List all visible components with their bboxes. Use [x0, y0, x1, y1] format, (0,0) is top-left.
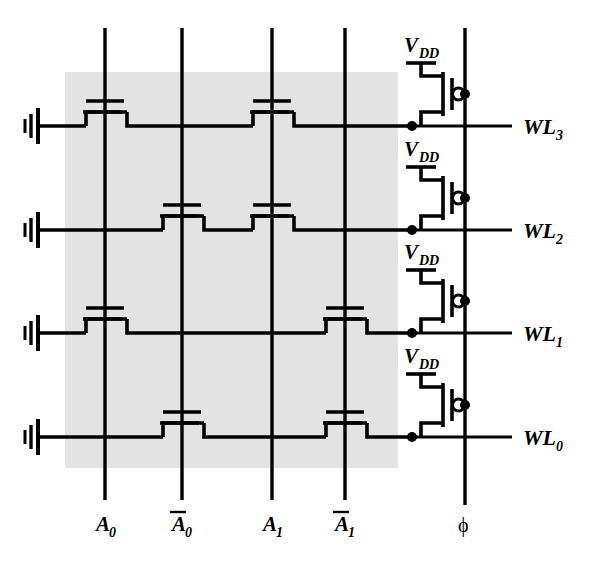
pmos-precharge-wl2: [406, 167, 470, 230]
address-label-a0: A 0: [94, 512, 116, 540]
vdd-label-wl2-text: V: [404, 137, 420, 161]
wl2-junction-dot: [407, 225, 417, 235]
circuit-diagram-figure: V DD V DD V DD V DD WL 3 WL 2 WL 1 WL 0 …: [0, 0, 590, 566]
a1-label-text: A: [261, 512, 277, 536]
address-label-a1: A 1: [261, 512, 283, 540]
pmos-wl2-drain-arm: [421, 216, 443, 230]
vdd-label-wl1-text: V: [404, 240, 420, 264]
wl0-label-text: WL: [523, 425, 556, 450]
wordline-label-wl2: WL 2: [523, 218, 563, 247]
vdd-label-wl0-sub: DD: [418, 357, 439, 372]
vdd-label-wl1-sub: DD: [418, 253, 439, 268]
pmos-wl0-clock-junction-dot: [460, 400, 470, 410]
decoder-schematic-svg: V DD V DD V DD V DD WL 3 WL 2 WL 1 WL 0 …: [0, 0, 590, 566]
wl0-junction-dot: [407, 432, 417, 442]
vdd-label-wl1: V DD: [404, 240, 439, 268]
a1-label-sub: 1: [276, 525, 283, 540]
pmos-precharge-wl3: [406, 63, 470, 126]
pmos-wl2-clock-junction-dot: [460, 193, 470, 203]
wordline-label-wl0: WL 0: [523, 425, 563, 454]
vdd-label-wl0-text: V: [404, 344, 420, 368]
wl2-label-sub: 2: [555, 232, 563, 247]
pmos-wl3-drain-arm: [421, 112, 443, 126]
a0-bar-label-sub: 0: [185, 525, 192, 540]
ground-symbol-wl1: [25, 315, 38, 351]
vdd-label-wl2-sub: DD: [418, 150, 439, 165]
a0-label-text: A: [94, 512, 110, 536]
wl2-label-text: WL: [523, 218, 556, 243]
wl1-label-sub: 1: [556, 335, 563, 350]
vdd-label-wl3-sub: DD: [418, 46, 439, 61]
wordline-label-wl3: WL 3: [523, 114, 563, 143]
wl3-label-text: WL: [523, 114, 556, 139]
ground-symbol-wl3: [25, 108, 38, 144]
nmos-array-shaded-region: [65, 72, 398, 468]
wl1-label-text: WL: [523, 321, 556, 346]
vdd-label-wl0: V DD: [404, 344, 439, 372]
pmos-precharge-wl0: [406, 374, 470, 437]
ground-symbol-wl0: [25, 419, 38, 455]
pmos-wl0-drain-arm: [421, 423, 443, 437]
pmos-precharge-wl1: [406, 270, 470, 333]
wordline-label-wl1: WL 1: [523, 321, 563, 350]
wl3-label-sub: 3: [555, 128, 563, 143]
wl1-junction-dot: [407, 328, 417, 338]
a1-bar-label-text: A: [333, 512, 349, 536]
vdd-label-wl3: V DD: [404, 33, 439, 61]
pmos-wl3-clock-junction-dot: [460, 89, 470, 99]
pmos-wl1-drain-arm: [421, 319, 443, 333]
address-label-a1-bar: A 1: [333, 512, 355, 540]
pmos-wl1-clock-junction-dot: [460, 296, 470, 306]
ground-symbol-wl2: [25, 212, 38, 248]
pmos-wl3-source-arm: [421, 63, 443, 76]
wl0-label-sub: 0: [556, 439, 563, 454]
a0-label-sub: 0: [109, 525, 116, 540]
wl3-junction-dot: [407, 121, 417, 131]
phi-label: ϕ: [458, 514, 469, 537]
pmos-wl1-source-arm: [421, 270, 443, 283]
a0-bar-label-text: A: [170, 512, 186, 536]
vdd-label-wl2: V DD: [404, 137, 439, 165]
a1-bar-label-sub: 1: [348, 525, 355, 540]
pmos-wl2-source-arm: [421, 167, 443, 180]
address-label-a0-bar: A 0: [170, 512, 192, 540]
vdd-label-wl3-text: V: [404, 33, 420, 57]
pmos-wl0-source-arm: [421, 374, 443, 387]
